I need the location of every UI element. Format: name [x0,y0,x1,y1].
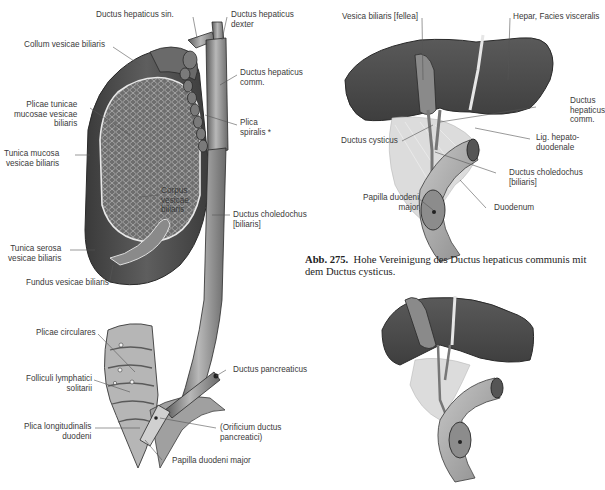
label-hepar-facies-visceralis: Hepar, Facies visceralis [513,12,599,22]
caption-number: Abb. 275. [305,254,348,265]
label-plica-spiralis: Plica spiralis * [240,118,271,137]
figure-caption: Abb. 275. Hohe Vereinigung des Ductus he… [305,254,600,279]
label-papilla-duodeni-major: Papilla duodeni major [172,456,251,466]
gallbladder-drawing [85,22,228,468]
label-right-ductus-choledochus: Ductus choledochus [biliaris] [509,168,583,187]
caption-text: Hohe Vereinigung des Ductus hepaticus co… [305,254,586,277]
label-ductus-hepaticus-sin: Ductus hepaticus sin. [96,10,174,20]
liver-figure-top [345,35,553,262]
label-lig-hepatoduodenale: Lig. hepato- duodenale [536,133,579,152]
label-tunica-mucosa: Tunica mucosa vesicae biliaris [4,149,59,168]
label-ductus-hepaticus-dexter: Ductus hepaticus dexter [231,10,294,29]
label-ductus-cysticus: Ductus cysticus [341,136,398,146]
label-tunica-serosa: Tunica serosa vesicae biliaris [8,244,61,263]
label-orificium-ductus-pancreatici: (Orificium ductus pancreatici) [220,423,281,442]
label-corpus-vesicae-biliaris: Corpus vesicae biliaris [161,186,189,215]
liver-figure-bottom [382,296,534,482]
label-plica-longitudinalis: Plica longitudinalis duodeni [24,422,91,441]
label-duodenum: Duodenum [494,203,534,213]
label-right-ductus-hepaticus-comm: Ductus hepaticus comm. [570,96,605,125]
label-vesica-biliaris: Vesica biliaris [fellea] [342,12,418,22]
label-collum-vesicae-biliaris: Collum vesicae biliaris [24,40,105,50]
label-ductus-choledochus: Ductus choledochus [biliaris] [233,210,307,229]
label-plicae-tunicae-mucosae: Plicae tunicae mucosae vesicae biliaris [14,100,77,129]
label-plicae-circulares: Plicae circulares [36,328,96,338]
label-right-papilla-duodeni-major: Papilla duodeni major [363,193,419,212]
label-folliculi-lymphatici: Folliculi lymphatici solitarii [26,374,92,393]
label-fundus-vesicae-biliaris: Fundus vesicae biliaris [26,278,109,288]
label-ductus-hepaticus-comm: Ductus hepaticus comm. [240,68,303,87]
label-ductus-pancreaticus: Ductus pancreaticus [233,365,307,375]
